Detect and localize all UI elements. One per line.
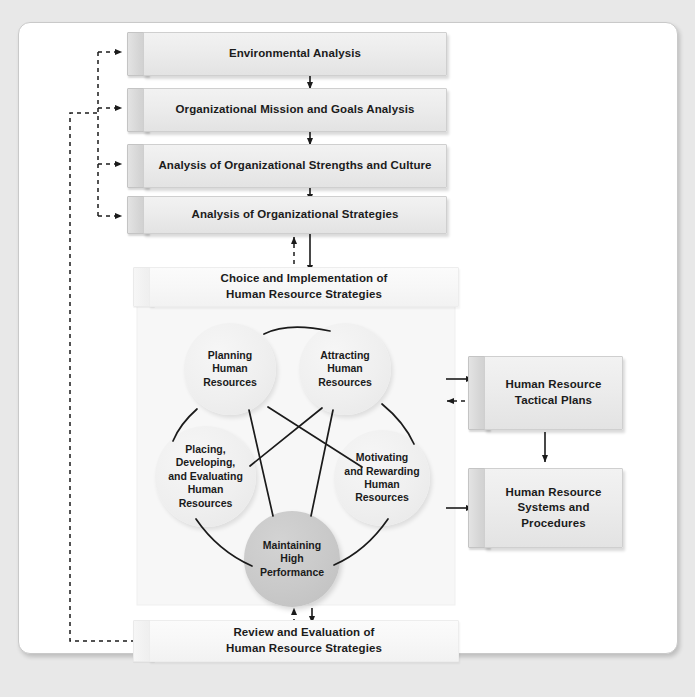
circle-line: Placing, <box>185 443 225 455</box>
box-face: Human Resource Tactical Plans <box>484 356 623 430</box>
circle-motivating-rewarding-human-resources[interactable]: Motivating and Rewarding Human Resources <box>334 430 430 526</box>
output-box-line2: Tactical Plans <box>515 394 592 406</box>
circle-line: Resources <box>203 376 257 388</box>
box-face: Analysis of Organizational Strategies <box>143 196 447 234</box>
process-box-strengths-culture-analysis[interactable]: Analysis of Organizational Strengths and… <box>127 144 447 188</box>
circle-line: Planning <box>208 349 252 361</box>
process-box-strategies-analysis[interactable]: Analysis of Organizational Strategies <box>127 196 447 234</box>
circle-line: Performance <box>260 566 324 578</box>
process-box-label: Analysis of Organizational Strengths and… <box>150 158 439 174</box>
circle-line: Human <box>327 362 363 374</box>
circle-planning-human-resources[interactable]: Planning Human Resources <box>184 323 276 415</box>
process-box-choice-implementation[interactable]: Choice and Implementation of Human Resou… <box>133 267 459 307</box>
circle-line: Maintaining <box>263 539 321 551</box>
process-box-mission-goals-analysis[interactable]: Organizational Mission and Goals Analysi… <box>127 88 447 132</box>
circle-line: High <box>280 552 303 564</box>
choice-box-line2: Human Resource Strategies <box>226 288 382 300</box>
process-box-environmental-analysis[interactable]: Environmental Analysis <box>127 32 447 76</box>
circle-line: Attracting <box>320 349 370 361</box>
circle-attracting-human-resources[interactable]: Attracting Human Resources <box>299 323 391 415</box>
circle-line: Resources <box>355 491 409 503</box>
circle-line: Resources <box>318 376 372 388</box>
circle-line: Motivating <box>356 451 409 463</box>
process-box-label: Environmental Analysis <box>221 46 369 62</box>
circle-placing-developing-evaluating-human-resources[interactable]: Placing, Developing, and Evaluating Huma… <box>155 426 256 527</box>
circle-line: Resources <box>179 497 233 509</box>
circle-line: Developing, <box>176 456 236 468</box>
box-face: Human Resource Systems and Procedures <box>484 468 623 548</box>
circle-line: and Evaluating <box>168 470 243 482</box>
box-face: Analysis of Organizational Strengths and… <box>143 144 447 188</box>
output-box-hr-systems-procedures[interactable]: Human Resource Systems and Procedures <box>468 468 623 548</box>
process-box-label: Organizational Mission and Goals Analysi… <box>168 102 423 118</box>
circle-line: Human <box>364 478 400 490</box>
output-box-line1: Human Resource <box>506 486 602 498</box>
circle-line: Human <box>212 362 248 374</box>
box-face: Review and Evaluation of Human Resource … <box>149 620 459 662</box>
output-box-line1: Human Resource <box>506 378 602 390</box>
output-box-hr-tactical-plans[interactable]: Human Resource Tactical Plans <box>468 356 623 430</box>
review-box-line2: Human Resource Strategies <box>226 642 382 654</box>
review-box-line1: Review and Evaluation of <box>233 626 374 638</box>
circle-maintaining-high-performance[interactable]: Maintaining High Performance <box>244 511 340 607</box>
box-face: Choice and Implementation of Human Resou… <box>149 267 459 307</box>
box-face: Environmental Analysis <box>143 32 447 76</box>
box-face: Organizational Mission and Goals Analysi… <box>143 88 447 132</box>
diagram-root: Environmental Analysis Organizational Mi… <box>0 0 695 697</box>
process-box-label: Analysis of Organizational Strategies <box>184 207 407 223</box>
circle-line: and Rewarding <box>344 465 419 477</box>
output-box-line2: Systems and <box>517 501 589 513</box>
choice-box-line1: Choice and Implementation of <box>220 272 387 284</box>
circle-line: Human <box>188 483 224 495</box>
output-box-line3: Procedures <box>521 517 585 529</box>
process-box-review-evaluation[interactable]: Review and Evaluation of Human Resource … <box>133 620 459 662</box>
